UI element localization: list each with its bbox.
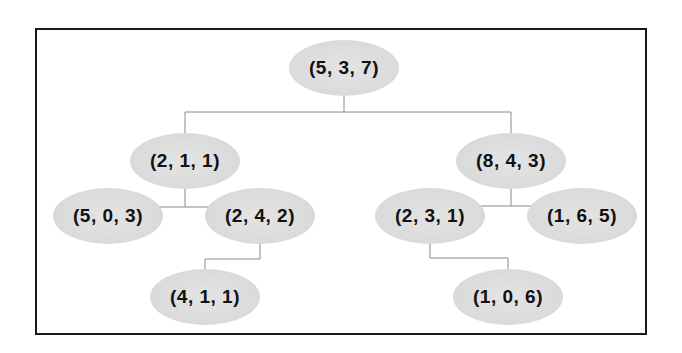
tree-node-left-right-left: (4, 1, 1) — [150, 269, 260, 325]
tree-node-right-left-right: (1, 0, 6) — [453, 269, 563, 325]
tree-node-left-left: (5, 0, 3) — [53, 188, 163, 244]
tree-node-left-right: (2, 4, 2) — [205, 188, 315, 244]
edge-lr-lrl — [205, 244, 260, 269]
tree-node-right: (8, 4, 3) — [456, 133, 566, 189]
tree-node-root: (5, 3, 7) — [289, 40, 399, 96]
edge-rl-rlr — [430, 244, 508, 269]
tree-node-left: (2, 1, 1) — [130, 133, 240, 189]
tree-node-right-right: (1, 6, 5) — [527, 188, 637, 244]
tree-node-right-left: (2, 3, 1) — [375, 188, 485, 244]
